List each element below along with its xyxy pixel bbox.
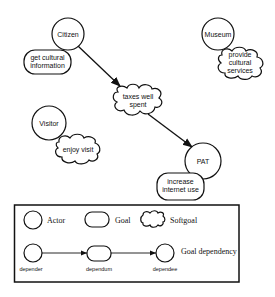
softgoal-label-line-3: services [227, 67, 253, 74]
softgoal-label-line-1: provide [229, 51, 252, 59]
actor-museum[interactable]: Museum [202, 18, 234, 50]
legend-depender-icon [24, 244, 42, 262]
dependency-link-citizen-to-taxes [78, 46, 120, 86]
actor-citizen[interactable]: Citizen [52, 18, 84, 50]
legend-dependum-label: dependum [86, 266, 112, 272]
goal-increase-internet-use[interactable]: increase internet use [157, 173, 204, 200]
legend-dependum-icon [87, 246, 111, 261]
softgoal-label-line-1: taxes well [123, 93, 154, 100]
istar-diagram: Citizen get cultural information taxes w… [0, 0, 275, 297]
legend-goal-label: Goal [115, 216, 131, 225]
softgoal-taxes-well-spent[interactable]: taxes well spent [113, 84, 161, 115]
actor-label: Visitor [39, 120, 59, 127]
legend-actor-label: Actor [47, 216, 66, 225]
softgoal-label: enjoy visit [63, 146, 94, 154]
goal-label-line-2: internet use [162, 186, 199, 193]
softgoal-label-line-2: cultural [229, 59, 252, 66]
legend-goal-dependency-label: Goal dependency [181, 247, 237, 256]
softgoal-label-line-2: spent [129, 101, 146, 109]
actor-visitor[interactable]: Visitor [32, 106, 66, 140]
goal-label-line-1: get cultural [30, 54, 65, 62]
goal-label-line-2: information [30, 62, 65, 69]
legend-dependee-label: dependee [153, 266, 177, 272]
goal-get-cultural-information[interactable]: get cultural information [24, 50, 71, 74]
legend-depender-label: depender [19, 266, 42, 272]
legend: Actor Goal Softgoal Goal dependency depe… [15, 205, 240, 282]
legend-softgoal-label: Softgoal [170, 216, 198, 225]
legend-actor-icon [24, 211, 42, 229]
dependency-link-taxes-to-pat [148, 114, 192, 147]
actor-label: PAT [197, 158, 210, 165]
actor-label: Citizen [57, 31, 79, 38]
goal-label-line-1: increase [167, 178, 194, 185]
softgoal-provide-cultural-services[interactable]: provide cultural services [218, 47, 263, 79]
softgoal-enjoy-visit[interactable]: enjoy visit [56, 134, 100, 164]
legend-softgoal-icon [141, 211, 165, 228]
legend-goal-icon [85, 212, 109, 227]
actor-label: Museum [205, 31, 232, 38]
legend-dependee-icon [156, 244, 174, 262]
